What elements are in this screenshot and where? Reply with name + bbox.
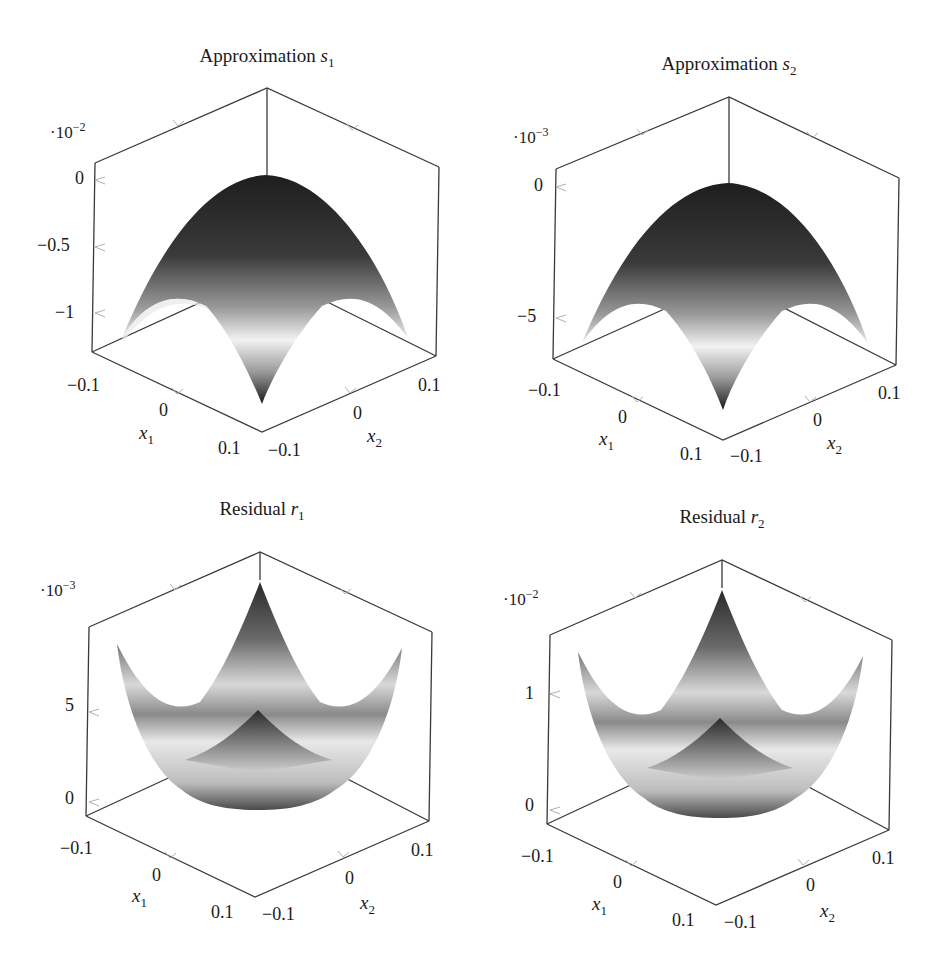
x1-tick: −0.1 bbox=[528, 380, 561, 401]
x2-tick: 0.1 bbox=[878, 383, 901, 404]
x1-tick: 0 bbox=[618, 407, 627, 428]
x2-tick: −0.1 bbox=[730, 446, 763, 467]
x1-tick: −0.1 bbox=[521, 846, 554, 867]
z-tick: 0 bbox=[534, 175, 543, 196]
x1-axis-label: x1 bbox=[139, 422, 154, 448]
x2-tick: 0 bbox=[353, 403, 362, 424]
x2-tick: 0 bbox=[345, 868, 354, 889]
z-tick: 1 bbox=[525, 683, 534, 704]
x2-tick: 0 bbox=[813, 410, 822, 431]
x1-tick: 0 bbox=[152, 865, 161, 886]
z-scale-label: ·10−3 bbox=[40, 578, 75, 601]
x2-tick: 0.1 bbox=[418, 375, 441, 396]
z-scale-label: ·10−2 bbox=[50, 120, 85, 143]
z-tick: 0 bbox=[75, 168, 84, 189]
z-scale-label: ·10−2 bbox=[503, 587, 538, 610]
figure: Approximation s1 bbox=[0, 0, 938, 962]
panel-approximation-s1: Approximation s1 bbox=[0, 0, 470, 480]
x1-axis-label: x1 bbox=[599, 428, 614, 454]
x2-tick: −0.1 bbox=[268, 440, 301, 461]
z-tick: 0 bbox=[525, 795, 534, 816]
x1-tick: 0.1 bbox=[218, 438, 241, 459]
surface-plot bbox=[0, 0, 470, 480]
x1-tick: 0.1 bbox=[680, 444, 703, 465]
x2-axis-label: x2 bbox=[360, 892, 375, 918]
x1-tick: −0.1 bbox=[60, 838, 93, 859]
x2-tick: −0.1 bbox=[724, 912, 757, 933]
x1-tick: 0.1 bbox=[672, 910, 695, 931]
z-tick: −0.5 bbox=[37, 235, 70, 256]
z-tick: −5 bbox=[517, 306, 536, 327]
x1-tick: −0.1 bbox=[67, 375, 100, 396]
x1-tick: 0.1 bbox=[211, 902, 234, 923]
surface-plot bbox=[470, 0, 938, 480]
x2-axis-label: x2 bbox=[820, 900, 835, 926]
z-scale-label: ·10−3 bbox=[513, 125, 548, 148]
x2-tick: −0.1 bbox=[262, 904, 295, 925]
x2-tick: 0.1 bbox=[872, 848, 895, 869]
x1-axis-label: x1 bbox=[132, 885, 147, 911]
panel-residual-r2: Residual r2 bbox=[470, 480, 938, 962]
x2-axis-label: x2 bbox=[367, 425, 382, 451]
x2-tick: 0 bbox=[806, 875, 815, 896]
panel-residual-r1: Residual r1 bbox=[0, 480, 470, 962]
z-tick: 0 bbox=[65, 788, 74, 809]
x1-tick: 0 bbox=[613, 872, 622, 893]
x2-tick: 0.1 bbox=[411, 840, 434, 861]
surface-plot bbox=[0, 480, 470, 962]
x1-axis-label: x1 bbox=[592, 893, 607, 919]
z-tick: 5 bbox=[65, 695, 74, 716]
surface-plot bbox=[470, 480, 938, 962]
z-tick: −1 bbox=[55, 302, 74, 323]
x2-axis-label: x2 bbox=[827, 432, 842, 458]
x1-tick: 0 bbox=[159, 400, 168, 421]
panel-approximation-s2: Approximation s2 bbox=[470, 0, 938, 480]
